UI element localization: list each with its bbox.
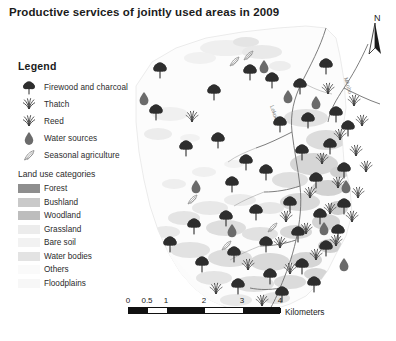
swatch-bare-soil <box>18 238 40 247</box>
category-label-forest: Forest <box>44 184 67 193</box>
scale-tick-0: 0 <box>126 296 130 305</box>
swatch-grassland <box>18 225 40 234</box>
category-label-bushland: Bushland <box>44 198 78 207</box>
category-label-water-bodies: Water bodies <box>44 252 92 261</box>
category-row-bare-soil: Bare soil <box>18 236 136 250</box>
water-droplet-icon <box>18 130 40 146</box>
tree-icon <box>18 79 40 95</box>
legend-item-water-sources: Water sources <box>18 130 136 146</box>
swatch-others <box>18 265 40 274</box>
legend-heading: Legend <box>18 60 136 72</box>
swatch-water-bodies <box>18 252 40 261</box>
scale-tick-1: 1 <box>164 296 168 305</box>
legend-label-reed: Reed <box>44 117 64 126</box>
page-title: Productive services of jointly used area… <box>9 6 279 18</box>
swatch-bushland <box>18 198 40 207</box>
category-label-grassland: Grassland <box>44 225 81 234</box>
legend-item-reed: Reed <box>18 113 136 129</box>
legend: Legend Firewood and charcoal <box>18 60 136 290</box>
category-label-bare-soil: Bare soil <box>44 238 76 247</box>
swatch-woodland <box>18 211 40 220</box>
category-row-floodplains: Floodplains <box>18 277 136 291</box>
scale-tick-2: 2 <box>202 296 206 305</box>
category-row-water-bodies: Water bodies <box>18 250 136 264</box>
hatched-leaf-icon <box>18 147 40 163</box>
land-use-categories-heading: Land use categories <box>18 169 136 179</box>
scale-bar: 0 0.5 1 2 3 4 Kilometers <box>128 296 308 314</box>
category-row-grassland: Grassland <box>18 223 136 237</box>
scale-tick-0-5: 0.5 <box>141 296 152 305</box>
scale-bar-graphic: Kilometers <box>128 307 280 314</box>
category-label-woodland: Woodland <box>44 211 81 220</box>
legend-label-thatch: Thatch <box>44 100 69 109</box>
category-row-bushland: Bushland <box>18 196 136 210</box>
map-canvas: Lokoka Mkoho <box>130 22 396 341</box>
scale-tick-3: 3 <box>240 296 244 305</box>
legend-label-water-sources: Water sources <box>44 134 97 143</box>
category-label-floodplains: Floodplains <box>44 279 86 288</box>
swatch-floodplains <box>18 279 40 288</box>
scale-bar-ticks: 0 0.5 1 2 3 4 <box>128 296 308 307</box>
scale-tick-4: 4 <box>278 296 282 305</box>
north-arrow: N <box>360 14 390 60</box>
legend-label-seasonal-agriculture: Seasonal agriculture <box>44 151 120 160</box>
grass-tuft-icon <box>18 96 40 112</box>
category-row-forest: Forest <box>18 182 136 196</box>
legend-item-thatch: Thatch <box>18 96 136 112</box>
grass-tuft-icon <box>18 113 40 129</box>
category-row-others: Others <box>18 263 136 277</box>
legend-label-firewood: Firewood and charcoal <box>44 83 128 92</box>
legend-item-firewood: Firewood and charcoal <box>18 79 136 95</box>
legend-item-seasonal-agriculture: Seasonal agriculture <box>18 147 136 163</box>
north-arrow-label: N <box>374 13 381 23</box>
category-row-woodland: Woodland <box>18 209 136 223</box>
swatch-forest <box>18 184 40 193</box>
map-figure: Productive services of jointly used area… <box>0 0 396 341</box>
category-label-others: Others <box>44 265 69 274</box>
scale-bar-units: Kilometers <box>285 307 325 317</box>
